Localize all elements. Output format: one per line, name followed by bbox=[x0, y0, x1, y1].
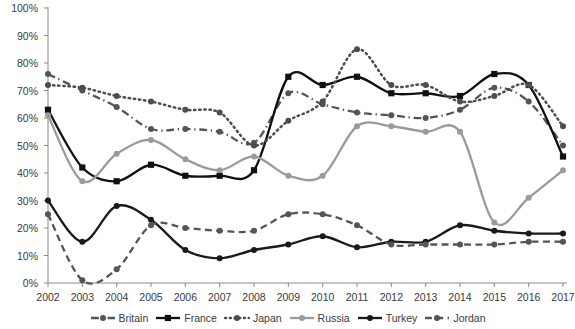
data-point bbox=[354, 46, 360, 52]
chart-plot-area bbox=[0, 0, 575, 329]
data-point bbox=[45, 82, 51, 88]
series-line bbox=[48, 74, 563, 146]
x-axis-tick-label: 2004 bbox=[105, 291, 128, 303]
data-point bbox=[560, 123, 566, 129]
series-japan bbox=[45, 46, 566, 148]
data-point bbox=[182, 247, 188, 253]
x-axis: 2002200320042005200620072008200920102011… bbox=[0, 291, 575, 307]
data-point bbox=[79, 178, 85, 184]
chart-container: 0%10%20%30%40%50%60%70%80%90%100% 200220… bbox=[0, 0, 575, 329]
data-point bbox=[285, 242, 291, 248]
x-axis-tick-label: 2003 bbox=[71, 291, 94, 303]
series-line bbox=[48, 115, 563, 225]
data-point bbox=[423, 129, 429, 135]
legend-swatch-japan-icon bbox=[224, 313, 250, 323]
x-axis-tick-label: 2008 bbox=[242, 291, 265, 303]
data-point bbox=[251, 247, 257, 253]
data-point bbox=[388, 82, 394, 88]
legend-swatch-turkey-icon bbox=[357, 313, 383, 323]
x-axis-tick-label: 2014 bbox=[448, 291, 471, 303]
series-france bbox=[45, 71, 566, 184]
data-point bbox=[320, 173, 326, 179]
x-axis-tick-label: 2011 bbox=[346, 291, 369, 303]
data-point bbox=[560, 143, 566, 149]
data-point bbox=[320, 99, 326, 105]
data-point bbox=[560, 153, 566, 159]
data-point bbox=[114, 203, 120, 209]
data-point bbox=[217, 167, 223, 173]
legend-label: Britain bbox=[119, 313, 149, 324]
legend-label: Japan bbox=[253, 313, 282, 324]
data-point bbox=[491, 242, 497, 248]
data-point bbox=[423, 82, 429, 88]
x-axis-tick-label: 2010 bbox=[311, 291, 334, 303]
data-point bbox=[491, 93, 497, 99]
x-axis-tick-label: 2002 bbox=[36, 291, 59, 303]
data-point bbox=[354, 74, 360, 80]
data-point bbox=[79, 277, 85, 283]
data-point bbox=[114, 93, 120, 99]
data-point bbox=[354, 222, 360, 228]
data-point bbox=[114, 178, 120, 184]
data-point bbox=[45, 211, 51, 217]
legend-swatch-france-icon bbox=[155, 313, 181, 323]
series-line bbox=[48, 213, 563, 284]
data-point bbox=[526, 195, 532, 201]
series-line bbox=[48, 72, 563, 181]
data-point bbox=[423, 90, 429, 96]
data-point bbox=[45, 71, 51, 77]
data-point bbox=[45, 198, 51, 204]
legend-item-russia[interactable]: Russia bbox=[289, 313, 350, 324]
data-point bbox=[182, 126, 188, 132]
data-point bbox=[560, 167, 566, 173]
series-britain bbox=[45, 71, 566, 149]
data-point bbox=[79, 239, 85, 245]
series-jordan bbox=[45, 211, 566, 283]
data-point bbox=[388, 123, 394, 129]
data-point bbox=[354, 123, 360, 129]
data-point bbox=[457, 107, 463, 113]
data-point bbox=[148, 137, 154, 143]
data-point bbox=[251, 167, 257, 173]
legend-marker bbox=[434, 315, 440, 321]
x-axis-tick-label: 2009 bbox=[277, 291, 300, 303]
legend-label: Jordan bbox=[453, 313, 485, 324]
x-axis-tick-label: 2017 bbox=[551, 291, 574, 303]
data-point bbox=[526, 99, 532, 105]
legend-item-turkey[interactable]: Turkey bbox=[357, 313, 418, 324]
data-point bbox=[457, 222, 463, 228]
legend-marker bbox=[234, 315, 240, 321]
x-axis-tick-label: 2013 bbox=[414, 291, 437, 303]
data-point bbox=[114, 104, 120, 110]
data-point bbox=[285, 173, 291, 179]
data-point bbox=[320, 211, 326, 217]
data-point bbox=[320, 233, 326, 239]
series-russia bbox=[45, 112, 566, 225]
legend-item-jordan[interactable]: Jordan bbox=[424, 313, 485, 324]
legend-marker bbox=[165, 315, 171, 321]
legend-item-britain[interactable]: Britain bbox=[90, 313, 149, 324]
legend-item-france[interactable]: France bbox=[155, 313, 217, 324]
data-point bbox=[457, 99, 463, 105]
data-point bbox=[182, 156, 188, 162]
data-point bbox=[251, 228, 257, 234]
data-point bbox=[45, 112, 51, 118]
legend-swatch-russia-icon bbox=[289, 313, 315, 323]
data-point bbox=[148, 126, 154, 132]
series-line bbox=[48, 201, 563, 259]
data-point bbox=[526, 239, 532, 245]
data-point bbox=[560, 231, 566, 237]
data-point bbox=[114, 151, 120, 157]
data-point bbox=[285, 90, 291, 96]
data-point bbox=[457, 242, 463, 248]
data-point bbox=[182, 107, 188, 113]
x-axis-tick-label: 2005 bbox=[139, 291, 162, 303]
legend-marker bbox=[299, 315, 305, 321]
x-axis-tick-label: 2006 bbox=[174, 291, 197, 303]
data-point bbox=[457, 129, 463, 135]
legend-item-japan[interactable]: Japan bbox=[224, 313, 282, 324]
legend-swatch-britain-icon bbox=[90, 313, 116, 323]
legend-label: Russia bbox=[318, 313, 350, 324]
data-point bbox=[217, 173, 223, 179]
x-axis-tick-label: 2012 bbox=[380, 291, 403, 303]
